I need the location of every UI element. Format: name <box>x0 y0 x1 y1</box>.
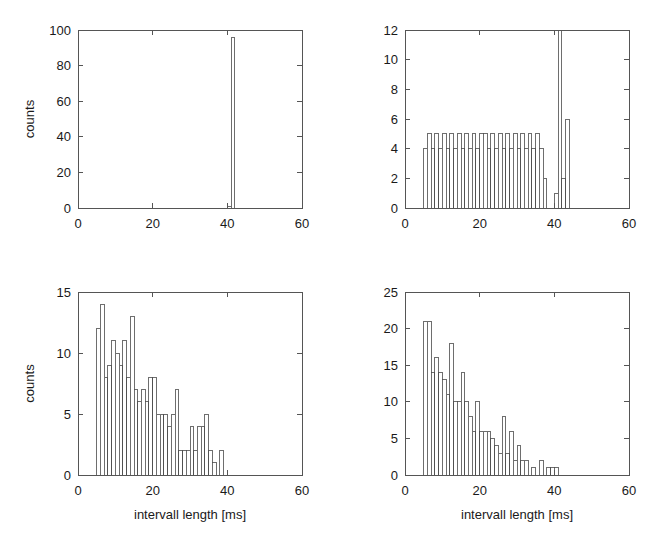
histogram-panel-top-left: 0204060020406080100counts <box>0 0 326 268</box>
histogram-bar <box>446 394 450 475</box>
y-tick-label: 5 <box>391 431 398 446</box>
y-tick-label: 2 <box>391 171 398 186</box>
bar-group <box>424 0 570 208</box>
x-tick-label: 0 <box>401 483 408 498</box>
y-tick-label: 20 <box>384 321 398 336</box>
histogram-bar <box>427 321 431 475</box>
histogram-bar <box>510 431 514 475</box>
histogram-bar <box>104 377 108 475</box>
histogram-bar <box>123 341 127 475</box>
x-tick-label: 40 <box>220 483 234 498</box>
histogram-bar <box>201 426 205 475</box>
x-axis-title: intervall length [ms] <box>134 507 246 522</box>
x-tick-label: 0 <box>74 216 81 231</box>
plot-area-top-left: 0204060020406080100counts <box>0 0 326 268</box>
histogram-panel-bottom-left: 0204060051015countsintervall length [ms] <box>0 262 326 535</box>
histogram-bar <box>498 453 502 475</box>
histogram-bar <box>186 451 190 475</box>
histogram-bar <box>153 377 157 475</box>
histogram-bar <box>487 431 491 475</box>
y-tick-label: 15 <box>384 358 398 373</box>
histogram-bar <box>454 402 458 475</box>
histogram-bar <box>168 426 172 475</box>
histogram-bar <box>138 402 142 475</box>
y-tick-label: 0 <box>64 201 71 216</box>
y-tick-label: 6 <box>391 112 398 127</box>
histogram-bar <box>160 414 164 475</box>
plot-area-top-right: 0204060024681012 <box>327 0 653 268</box>
histogram-bar <box>532 468 536 475</box>
x-tick-label: 20 <box>145 216 159 231</box>
histogram-bar <box>491 134 495 208</box>
histogram-bar <box>134 390 138 475</box>
histogram-bar <box>454 149 458 208</box>
histogram-bar <box>446 149 450 208</box>
histogram-bar <box>424 321 428 475</box>
histogram-bar <box>468 149 472 208</box>
histogram-panel-bottom-right: 02040600510152025intervall length [ms] <box>327 262 653 535</box>
histogram-bar <box>528 134 532 208</box>
histogram-bar <box>483 431 487 475</box>
histogram-bar <box>450 343 454 475</box>
histogram-bar <box>220 451 224 475</box>
histogram-bar <box>502 416 506 475</box>
histogram-bar <box>532 149 536 208</box>
y-axis-title: counts <box>22 364 37 403</box>
histogram-panel-top-right: 0204060024681012 <box>327 0 653 268</box>
x-tick-label: 40 <box>547 483 561 498</box>
histogram-bar <box>551 468 555 475</box>
x-tick-label: 20 <box>472 216 486 231</box>
histogram-bar <box>566 119 570 208</box>
histogram-bar <box>231 37 235 208</box>
histogram-bar <box>97 329 101 475</box>
x-tick-label: 0 <box>74 483 81 498</box>
y-tick-label: 20 <box>57 165 71 180</box>
histogram-bar <box>491 438 495 475</box>
bar-group <box>227 37 234 208</box>
y-axis-title: counts <box>22 99 37 138</box>
histogram-bar <box>524 460 528 475</box>
y-tick-label: 60 <box>57 94 71 109</box>
histogram-bar <box>190 426 194 475</box>
histogram-bar <box>427 134 431 208</box>
y-tick-label: 4 <box>391 141 398 156</box>
x-tick-label: 40 <box>220 216 234 231</box>
y-tick-label: 10 <box>384 52 398 67</box>
x-tick-label: 20 <box>472 483 486 498</box>
histogram-bar <box>498 134 502 208</box>
histogram-bar <box>487 149 491 208</box>
histogram-bar <box>197 426 201 475</box>
histogram-bar <box>480 134 484 208</box>
bar-group <box>97 304 224 475</box>
histogram-bar <box>115 353 119 475</box>
histogram-bar <box>194 451 198 475</box>
histogram-bar <box>543 178 547 208</box>
histogram-bar <box>100 304 104 475</box>
histogram-bar <box>127 377 131 475</box>
histogram-bar <box>554 193 558 208</box>
histogram-bar <box>130 316 134 475</box>
histogram-bar <box>513 460 517 475</box>
histogram-bar <box>465 134 469 208</box>
x-axis-title: intervall length [ms] <box>461 507 573 522</box>
histogram-bar <box>476 149 480 208</box>
histogram-bar <box>431 373 435 475</box>
y-tick-label: 10 <box>57 346 71 361</box>
histogram-bar <box>506 134 510 208</box>
histogram-bar <box>461 149 465 208</box>
histogram-bar <box>205 414 209 475</box>
axis-frame <box>78 30 302 208</box>
histogram-bar <box>164 414 168 475</box>
histogram-bar <box>175 390 179 475</box>
histogram-bar <box>521 460 525 475</box>
x-tick-label: 40 <box>547 216 561 231</box>
bar-group <box>424 321 558 475</box>
y-tick-label: 25 <box>384 285 398 300</box>
histogram-bar <box>119 365 123 475</box>
histogram-bar <box>442 380 446 475</box>
histogram-bar <box>476 402 480 475</box>
histogram-bar <box>457 402 461 475</box>
histogram-bar <box>468 416 472 475</box>
histogram-bar <box>547 468 551 475</box>
histogram-bar <box>562 178 566 208</box>
